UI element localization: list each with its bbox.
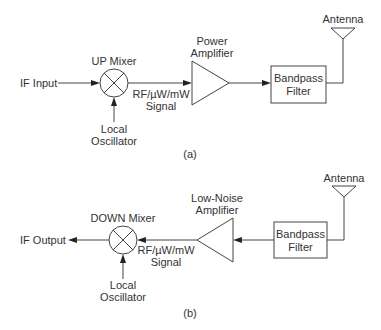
arrowhead-icon: [262, 80, 271, 86]
arrowhead-icon: [233, 237, 242, 243]
lna-label-line2: Amplifier: [196, 204, 239, 216]
if-output-label: IF Output: [20, 234, 66, 246]
rf-signal-label-line1: RF/µW/mW: [132, 88, 190, 100]
filter-label-line1: Bandpass: [274, 72, 323, 84]
mixer-icon: [100, 69, 128, 97]
arrowhead-icon: [137, 237, 146, 243]
arrowhead-icon: [68, 237, 77, 243]
lna-label-line1: Low-Noise: [191, 192, 243, 204]
rf-signal-label-line2: Signal: [151, 256, 182, 268]
down-mixer-label: DOWN Mixer: [91, 212, 156, 224]
lo-label-line1: Local: [110, 279, 136, 291]
antenna-label: Antenna: [323, 13, 365, 25]
arrowhead-icon: [183, 80, 192, 86]
antenna-label: Antenna: [324, 172, 366, 184]
power-amp-label-line1: Power: [196, 35, 228, 47]
lo-label-line2: Oscillator: [100, 291, 146, 303]
antenna-icon: [331, 28, 355, 39]
filter-label-line2: Filter: [286, 85, 311, 97]
lo-label-line1: Local: [101, 123, 127, 135]
if-input-label: IF Input: [20, 77, 57, 89]
power-amp-label-line2: Amplifier: [191, 47, 234, 59]
mixer-icon: [109, 226, 137, 254]
rf-signal-label-line1: RF/µW/mW: [137, 244, 195, 256]
filter-label-line1: Bandpass: [276, 228, 325, 240]
antenna-icon: [332, 186, 356, 197]
arrowhead-icon: [111, 97, 117, 106]
filter-label-line2: Filter: [288, 241, 313, 253]
lna-triangle-icon: [197, 218, 233, 262]
antenna-feed-line: [326, 38, 343, 83]
amplifier-triangle-icon: [192, 61, 229, 105]
arrowhead-icon: [120, 254, 126, 263]
lo-label-line2: Oscillator: [91, 135, 137, 147]
arrowhead-icon: [91, 80, 100, 86]
up-mixer-label: UP Mixer: [91, 55, 136, 67]
antenna-feed-line: [327, 197, 344, 240]
caption-b: (b): [183, 307, 196, 319]
diagram-a-transmitter: IF Input UP Mixer Local Oscillator RF/µW…: [20, 13, 364, 160]
diagram-b-receiver: IF Output DOWN Mixer Local Oscillator RF…: [20, 172, 365, 319]
caption-a: (a): [183, 148, 196, 160]
rf-signal-label-line2: Signal: [146, 100, 177, 112]
block-diagram: IF Input UP Mixer Local Oscillator RF/µW…: [0, 0, 381, 330]
